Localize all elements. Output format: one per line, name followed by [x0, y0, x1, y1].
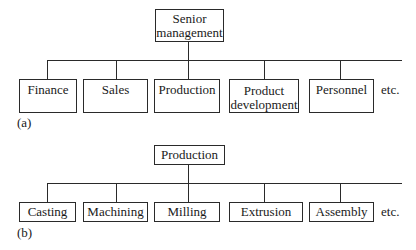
node-label: Machining — [87, 205, 143, 219]
node-label: Milling — [167, 205, 206, 219]
node-label: Sales — [102, 83, 129, 97]
connector-casting — [47, 183, 48, 202]
connector-root-a — [188, 42, 189, 61]
node-assembly: Assembly — [309, 202, 374, 222]
etc-label-a: etc. — [381, 83, 399, 97]
node-production-root: Production — [154, 145, 225, 165]
node-label: Production — [158, 83, 215, 97]
node-label: Assembly — [316, 205, 368, 219]
connector-extrusion — [264, 183, 265, 202]
node-sales: Sales — [83, 79, 148, 113]
connector-assembly — [340, 183, 341, 202]
node-personnel: Personnel — [309, 79, 374, 113]
diagram-label-a: (a) — [17, 116, 31, 130]
connector-production — [188, 60, 189, 79]
node-label: Finance — [27, 83, 68, 97]
node-label: Casting — [28, 205, 68, 219]
node-product-development: Product development — [229, 79, 299, 113]
connector-sales — [116, 60, 117, 79]
node-finance: Finance — [19, 79, 77, 113]
node-label-line2: management — [156, 26, 222, 40]
diagram-label-b: (b) — [17, 226, 32, 240]
node-senior-management: Senior management — [155, 9, 224, 42]
connector-milling — [188, 183, 189, 202]
node-label-line1: Product — [244, 84, 284, 98]
connector-finance — [47, 60, 48, 79]
node-casting: Casting — [19, 202, 76, 222]
node-label-line1: Senior — [173, 12, 207, 26]
node-label: Extrusion — [241, 205, 292, 219]
branch-line-a — [47, 60, 402, 61]
connector-personnel — [340, 60, 341, 79]
etc-label-b: etc. — [381, 205, 399, 219]
node-machining: Machining — [83, 202, 148, 222]
connector-product-development — [264, 60, 265, 79]
node-milling: Milling — [154, 202, 220, 222]
node-extrusion: Extrusion — [229, 202, 303, 222]
node-label: Personnel — [316, 83, 367, 97]
connector-machining — [116, 183, 117, 202]
connector-root-b — [188, 165, 189, 184]
node-label: Production — [161, 148, 218, 162]
node-production: Production — [154, 79, 220, 113]
node-label-line2: development — [230, 98, 297, 112]
branch-line-b — [47, 183, 402, 184]
